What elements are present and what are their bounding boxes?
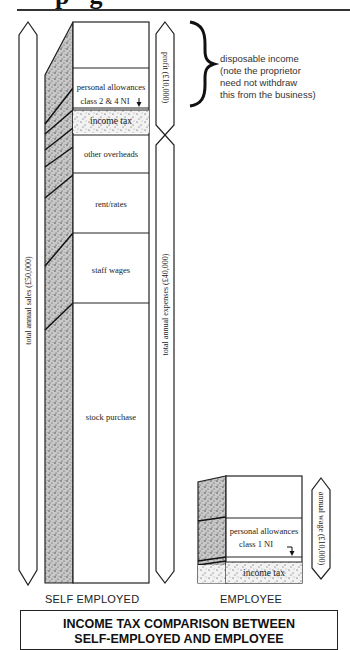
annual-wage-label: annual wage (£10,000) [317,489,326,569]
self-employed-caption: SELF EMPLOYED [45,593,139,605]
label-staff-wages: staff wages [73,265,149,275]
label-class-1-ni: class 1 NI [218,539,294,549]
label-stock-purchase: stock purchase [73,412,149,422]
total-sales-label: total annual sales (£50,000) [24,241,33,361]
note-line-1: disposable income [220,53,316,65]
figure-title-line-2: SELF-EMPLOYED AND EMPLOYEE [21,632,337,646]
expenses-label: total annual expenses (£40,000) [161,240,170,370]
self-employed-labels: personal allowances class 2 & 4 NI incom… [73,0,149,600]
label-other-overheads: other overheads [73,149,149,159]
label-employee-income-tax: income tax [226,568,302,578]
note-line-4: this from the business) [220,89,316,101]
employee-caption: EMPLOYEE [220,593,282,605]
disposable-income-note: disposable income (note the proprietor n… [220,53,316,101]
disposable-income-brace [190,22,214,106]
label-employee-personal-allowances: personal allowances [226,526,302,536]
label-personal-allowances: personal allowances [73,82,149,92]
figure-title-line-1: INCOME TAX COMPARISON BETWEEN [21,617,337,631]
note-line-2: (note the proprietor [220,65,316,77]
note-line-3: need not withdraw [220,77,316,89]
label-rent-rates: rent/rates [73,199,149,209]
employee-side-panel [198,476,226,583]
figure-title-box: INCOME TAX COMPARISON BETWEEN SELF-EMPLO… [20,610,338,650]
self-employed-side-panel [45,22,73,583]
label-income-tax: income tax [73,116,149,126]
label-class-2-4-ni: class 2 & 4 NI [67,96,143,106]
profit-label: profit (£10,000) [161,38,170,118]
